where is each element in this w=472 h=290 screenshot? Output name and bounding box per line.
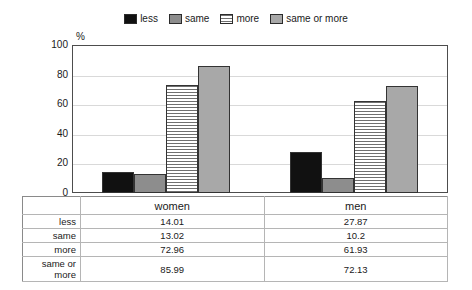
bar-men-more bbox=[354, 101, 386, 193]
y-tick-40: 40 bbox=[34, 129, 68, 139]
chart-legend: less same more same or more bbox=[0, 14, 472, 24]
legend-label-same-or-more: same or more bbox=[286, 14, 348, 24]
bar-women-more bbox=[166, 85, 198, 193]
category-label-women: women bbox=[81, 197, 265, 215]
table-row: same or more 85.99 72.13 bbox=[23, 257, 448, 282]
legend-label-same: same bbox=[185, 14, 209, 24]
bar-groups bbox=[72, 45, 448, 193]
table-value-women-same-or-more: 85.99 bbox=[81, 257, 265, 282]
y-axis-unit-label: % bbox=[76, 32, 85, 42]
table-value-women-same: 13.02 bbox=[81, 229, 265, 243]
table-value-women-more: 72.96 bbox=[81, 243, 265, 257]
table-row-label-more: more bbox=[23, 243, 81, 257]
bar-men-same bbox=[322, 178, 354, 193]
bar-men-less bbox=[290, 152, 322, 193]
table-row-label-same: same bbox=[23, 229, 81, 243]
table-row: less 14.01 27.87 bbox=[23, 215, 448, 229]
y-tick-20: 20 bbox=[34, 158, 68, 168]
legend-swatch-less-icon bbox=[124, 14, 137, 24]
bar-men-same-or-more bbox=[386, 86, 418, 193]
table-value-men-same: 10.2 bbox=[264, 229, 448, 243]
table-value-men-same-or-more: 72.13 bbox=[264, 257, 448, 282]
table-corner-cell bbox=[23, 197, 81, 215]
bar-group-women bbox=[72, 45, 260, 193]
category-label-men: men bbox=[264, 197, 448, 215]
plot-region bbox=[72, 45, 448, 193]
legend-label-more: more bbox=[236, 14, 259, 24]
legend-item-more: more bbox=[220, 14, 259, 24]
table-category-row: women men bbox=[23, 197, 448, 215]
table-value-men-less: 27.87 bbox=[264, 215, 448, 229]
y-tick-100: 100 bbox=[34, 40, 68, 50]
y-axis: 100 80 60 40 20 0 bbox=[30, 45, 68, 193]
table-value-women-less: 14.01 bbox=[81, 215, 265, 229]
bar-women-same bbox=[134, 174, 166, 193]
bar-group-men bbox=[260, 45, 448, 193]
legend-item-same: same bbox=[169, 14, 209, 24]
legend-swatch-more-icon bbox=[220, 14, 233, 24]
table-value-men-more: 61.93 bbox=[264, 243, 448, 257]
legend-swatch-same-or-more-icon bbox=[270, 14, 283, 24]
bar-women-less bbox=[102, 172, 134, 193]
legend-swatch-same-icon bbox=[169, 14, 182, 24]
legend-item-same-or-more: same or more bbox=[270, 14, 348, 24]
legend-label-less: less bbox=[140, 14, 158, 24]
bar-women-same-or-more bbox=[198, 66, 230, 193]
bar-chart-figure: less same more same or more % 100 80 60 … bbox=[0, 0, 472, 290]
table-row-label-same-or-more: same or more bbox=[23, 257, 81, 282]
table-row-label-less: less bbox=[23, 215, 81, 229]
data-table: women men less 14.01 27.87 same 13.02 10… bbox=[22, 196, 448, 282]
legend-item-less: less bbox=[124, 14, 158, 24]
y-tick-80: 80 bbox=[34, 70, 68, 80]
y-tick-60: 60 bbox=[34, 99, 68, 109]
table-row: more 72.96 61.93 bbox=[23, 243, 448, 257]
table-row: same 13.02 10.2 bbox=[23, 229, 448, 243]
